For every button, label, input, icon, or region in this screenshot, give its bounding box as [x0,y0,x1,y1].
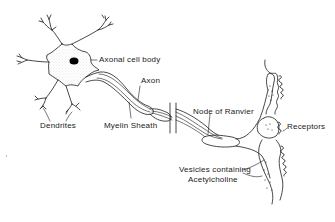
label-vesicles-line2: Acetylcholine [188,176,238,184]
cell-body [47,44,99,86]
nucleus [70,58,79,65]
label-node-of-ranvier: Node of Ranvier [193,108,254,116]
neuron-illustration [0,0,335,222]
label-axon: Axon [141,77,160,85]
label-myelin-sheath: Myelin Sheath [104,122,157,130]
neuron-diagram: Axonal cell body Axon Dendrites Myelin S… [0,0,335,222]
stray-mark [6,155,7,157]
label-vesicles-line1: Vesicles containing [179,166,251,174]
label-receptors: Receptors [287,123,325,131]
label-dendrites: Dendrites [40,122,76,130]
label-cell-body: Axonal cell body [99,56,160,64]
